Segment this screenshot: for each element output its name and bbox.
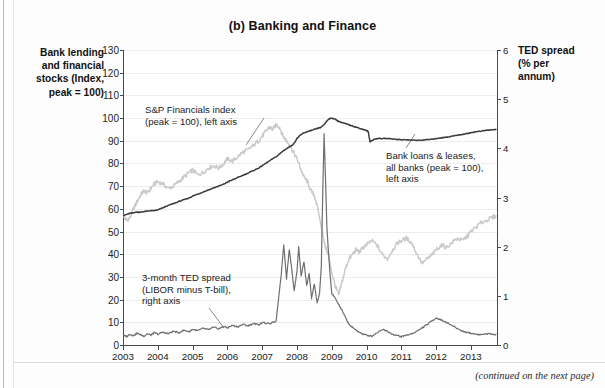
- y-tick-label-right: 3: [503, 192, 508, 203]
- x-tick-mark: [227, 346, 228, 350]
- x-tick-label: 2004: [147, 351, 169, 362]
- y-tick-label-right: 4: [503, 143, 508, 154]
- y-tick-label-right: 2: [503, 241, 508, 252]
- y-tick-label-left: 100: [102, 113, 119, 124]
- page-edge-rule-outer: [3, 0, 4, 388]
- y-tick-label-left: 110: [103, 90, 119, 101]
- x-tick-label: 2003: [112, 351, 134, 362]
- y-tick-label-left: 20: [108, 294, 119, 305]
- y-tick-mark-right: [498, 345, 501, 346]
- y-tick-mark-right: [498, 148, 501, 149]
- x-tick-label: 2011: [391, 351, 412, 362]
- page-title: (b) Banking and Finance: [0, 19, 605, 33]
- y-tick-label-left: 0: [113, 340, 119, 351]
- y-tick-label-left: 80: [108, 158, 119, 169]
- x-tick-mark: [193, 346, 194, 350]
- x-tick-mark: [332, 346, 333, 350]
- leader-line-loans: [406, 134, 415, 148]
- y-tick-label-right: 1: [503, 290, 508, 301]
- y-tick-label-left: 130: [102, 45, 119, 56]
- annotation-sp-financials: S&P Financials index (peak = 100), left …: [145, 104, 237, 127]
- y-tick-label-left: 10: [108, 317, 119, 328]
- y-tick-label-left: 50: [108, 226, 119, 237]
- x-tick-mark: [471, 346, 472, 350]
- page-edge-rule-inner: [13, 0, 14, 388]
- y-tick-label-right: 0: [503, 340, 508, 351]
- leader-line-ted: [209, 308, 224, 328]
- x-tick-label: 2005: [182, 351, 204, 362]
- x-tick-label: 2009: [321, 351, 343, 362]
- y-tick-label-right: 5: [503, 94, 508, 105]
- x-tick-mark: [401, 346, 402, 350]
- y-tick-mark-right: [498, 99, 501, 100]
- y-tick-mark-right: [498, 247, 501, 248]
- left-axis-caption: Bank lending and financial stocks (Index…: [20, 46, 104, 99]
- y-tick-label-left: 60: [108, 203, 119, 214]
- plot-area: 0102030405060708090100110120130 0123456 …: [123, 50, 498, 346]
- y-tick-label-left: 40: [108, 249, 119, 260]
- x-tick-mark: [262, 346, 263, 350]
- figure-page: (b) Banking and Finance Bank lending and…: [0, 0, 605, 388]
- x-tick-label: 2008: [286, 351, 308, 362]
- right-axis-caption: TED spread (% per annum): [518, 44, 604, 84]
- y-tick-label-left: 30: [108, 271, 119, 282]
- x-tick-mark: [297, 346, 298, 350]
- x-tick-mark: [158, 346, 159, 350]
- x-tick-label: 2007: [251, 351, 273, 362]
- leader-line-sp: [246, 118, 264, 145]
- y-tick-label-left: 70: [108, 181, 119, 192]
- x-tick-mark: [123, 346, 124, 350]
- x-tick-mark: [436, 346, 437, 350]
- annotation-ted-spread: 3-month TED spread (LIBOR minus T-bill),…: [142, 272, 231, 307]
- x-tick-label: 2012: [425, 351, 447, 362]
- y-tick-label-left: 120: [102, 67, 119, 78]
- figure-bottom-rule: [14, 362, 605, 363]
- y-tick-mark-right: [498, 296, 501, 297]
- x-tick-label: 2013: [460, 351, 482, 362]
- annotation-bank-loans: Bank loans & leases, all banks (peak = 1…: [386, 150, 483, 185]
- y-tick-mark-right: [498, 50, 501, 51]
- y-tick-label-left: 90: [108, 135, 119, 146]
- x-tick-mark: [367, 346, 368, 350]
- x-tick-label: 2010: [356, 351, 378, 362]
- y-tick-mark-right: [498, 198, 501, 199]
- y-tick-label-right: 6: [503, 45, 508, 56]
- x-tick-label: 2006: [216, 351, 238, 362]
- footer-note: (continued on the next page): [475, 370, 594, 381]
